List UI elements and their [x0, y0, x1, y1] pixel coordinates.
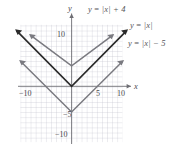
tick-x-10: 10	[117, 89, 125, 98]
tick-x-5: 5	[96, 89, 100, 98]
x-axis-label: x	[133, 81, 138, 91]
equation-operator: =	[132, 38, 142, 48]
equation-label-abs-x: y = |x|	[130, 21, 153, 30]
equation-expression: |x| + 4	[102, 4, 126, 14]
y-axis-label: y	[67, 3, 72, 13]
absolute-value-graph-figure: −10 5 10 10 −5 −10 x y y = |x| + 4 y = |…	[0, 0, 184, 155]
tick-y-neg-5: −5	[63, 110, 72, 119]
equation-operator: =	[92, 4, 102, 14]
equation-operator: =	[134, 20, 144, 30]
equation-expression: |x| − 5	[142, 38, 166, 48]
tick-y-10: 10	[57, 30, 65, 39]
equation-label-abs-plus-4: y = |x| + 4	[88, 5, 126, 14]
tick-x-neg-10: −10	[19, 89, 32, 98]
coordinate-plot: −10 5 10 10 −5 −10 x y	[0, 0, 184, 155]
equation-label-abs-minus-5: y = |x| − 5	[128, 39, 166, 48]
equation-expression: |x|	[144, 20, 153, 30]
tick-y-neg-10: −10	[55, 130, 68, 139]
